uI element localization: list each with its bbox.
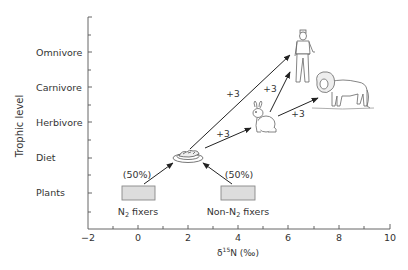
non-n2-fixers-label: Non-N2 fixers bbox=[207, 206, 270, 219]
n2-fixers-label: N2 fixers bbox=[118, 206, 158, 219]
y-axis-label: Trophic level bbox=[14, 95, 25, 159]
x-tick-label: 8 bbox=[336, 232, 342, 243]
x-tick-label: 0 bbox=[135, 232, 141, 243]
n2-fixers-box bbox=[122, 186, 155, 200]
food-plate-icon bbox=[173, 150, 203, 162]
y-label-omnivore: Omnivore bbox=[36, 47, 83, 58]
trophic-diagram: Trophic level Omnivore Carnivore Herbivo… bbox=[0, 0, 408, 270]
source-non-n2-fixers: (50%) Non-N2 fixers bbox=[207, 169, 270, 219]
y-label-diet: Diet bbox=[36, 152, 56, 163]
non-n2-fixers-box bbox=[221, 186, 255, 200]
enrichment-herbivore-omnivore: +3 bbox=[263, 84, 276, 94]
y-label-herbivore: Herbivore bbox=[36, 117, 83, 128]
y-category-labels: Omnivore Carnivore Herbivore Diet Plants bbox=[36, 47, 83, 198]
enrichment-herbivore-carnivore: +3 bbox=[291, 109, 304, 119]
enrichment-diet-herbivore: +3 bbox=[216, 129, 229, 139]
x-tick-label: 2 bbox=[185, 232, 191, 243]
x-tick-label: −2 bbox=[81, 232, 95, 243]
x-tick-label: 6 bbox=[285, 232, 291, 243]
enrichment-diet-omnivore: +3 bbox=[226, 89, 239, 99]
y-label-plants: Plants bbox=[36, 187, 65, 198]
x-tick-label: 4 bbox=[235, 232, 241, 243]
x-tick-label: 10 bbox=[384, 232, 396, 243]
x-axis-label-sup: 15 bbox=[223, 246, 231, 253]
n2-fixers-percent: (50%) bbox=[123, 169, 152, 180]
non-n2-fixers-percent: (50%) bbox=[225, 169, 254, 180]
x-axis-label: δ15N (‰) bbox=[217, 246, 259, 258]
y-label-carnivore: Carnivore bbox=[36, 82, 82, 93]
arrows bbox=[144, 55, 318, 184]
source-n2-fixers: (50%) N2 fixers bbox=[118, 169, 158, 219]
x-tick-labels: −2 0 2 4 6 8 10 bbox=[81, 232, 396, 243]
human-icon bbox=[295, 30, 315, 82]
lion-icon bbox=[312, 72, 374, 109]
x-axis-label-rest: N (‰) bbox=[230, 248, 259, 258]
